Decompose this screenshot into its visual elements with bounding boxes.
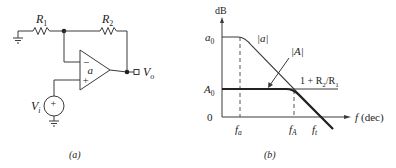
figure: R1 R2 − + a + Vi Vo (a) dB a0 A0 0 fa fA… bbox=[0, 0, 396, 168]
label-r1: R1 bbox=[35, 12, 47, 28]
tick-fa: fa bbox=[235, 123, 242, 137]
label-vo: Vo bbox=[143, 65, 154, 81]
bode-plot bbox=[220, 17, 351, 129]
ground-icon-r1 bbox=[13, 31, 23, 43]
level-a0: a0 bbox=[205, 31, 215, 46]
label-r2: R2 bbox=[101, 12, 113, 28]
label-closed-loop: |A| bbox=[291, 45, 304, 57]
level-zero: 0 bbox=[207, 111, 213, 123]
tick-fA: fA bbox=[289, 123, 297, 137]
junction-node-output bbox=[125, 70, 130, 75]
y-axis-label: dB bbox=[215, 5, 227, 16]
output-terminal bbox=[134, 70, 139, 75]
x-axis-label: f(dec) bbox=[355, 111, 384, 124]
label-opamp-gain: a bbox=[88, 64, 94, 76]
caption-b: (b) bbox=[264, 149, 276, 161]
x-axis-arrow-icon bbox=[344, 115, 351, 119]
label-ideal-gain: 1 + R2/R1 bbox=[300, 75, 339, 89]
label-open-loop: |a| bbox=[257, 32, 269, 44]
resistor-r1 bbox=[33, 28, 50, 35]
level-A0: A0 bbox=[203, 83, 215, 98]
pointer-arrowhead-icon bbox=[268, 82, 273, 88]
label-source-plus: + bbox=[51, 98, 57, 109]
tick-ft: ft bbox=[312, 123, 318, 137]
resistor-r2 bbox=[100, 28, 117, 35]
y-axis-arrow-icon bbox=[220, 17, 224, 23]
closed-loop-gain-curve bbox=[222, 89, 333, 129]
label-vi: Vi bbox=[31, 99, 41, 115]
ground-icon-source bbox=[49, 121, 59, 126]
caption-a: (a) bbox=[69, 149, 81, 161]
